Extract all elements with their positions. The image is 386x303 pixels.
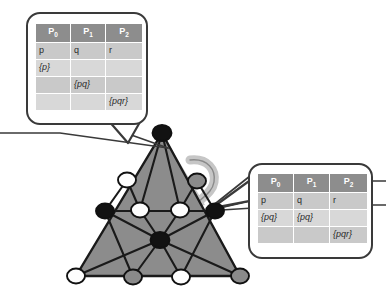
cell: p bbox=[258, 193, 293, 209]
callout-bottom-right-table: P0 P1 P2 p q r {pq} {pq} {pqr} bbox=[257, 173, 368, 244]
vertex-mid-left bbox=[96, 204, 114, 219]
vertex-bottom-center-left bbox=[124, 270, 142, 285]
cell: {pq} bbox=[71, 77, 105, 93]
cell: r bbox=[106, 43, 142, 59]
header-cell-p1: P1 bbox=[71, 24, 105, 42]
vertex-apex bbox=[153, 125, 172, 141]
vertex-bottom-right bbox=[231, 269, 249, 284]
cell: q bbox=[71, 43, 105, 59]
cell bbox=[106, 60, 142, 76]
vertex-mid-right bbox=[206, 204, 224, 219]
cell: {pqr} bbox=[330, 227, 367, 243]
vertex-upper-right bbox=[188, 174, 206, 189]
table-row: {pqr} bbox=[258, 227, 367, 243]
cell: {pqr} bbox=[106, 94, 142, 110]
table-row: p q r bbox=[36, 43, 142, 59]
table-row: {p} bbox=[36, 60, 142, 76]
table-header-row: P0 P1 P2 bbox=[36, 24, 142, 42]
cell bbox=[330, 210, 367, 226]
cell: {pq} bbox=[294, 210, 329, 226]
table-row: p q r bbox=[258, 193, 367, 209]
vertex-mid-center-left bbox=[131, 203, 149, 218]
header-cell-p2: P2 bbox=[330, 174, 367, 192]
cell bbox=[258, 227, 293, 243]
cell bbox=[36, 94, 70, 110]
callout-top-left-table: P0 P1 P2 p q r {p} {pq} bbox=[35, 23, 143, 111]
vertex-upper-left bbox=[118, 173, 136, 188]
table-row: {pq} bbox=[36, 77, 142, 93]
vertex-bottom-left bbox=[67, 269, 85, 284]
table-header-row: P0 P1 P2 bbox=[258, 174, 367, 192]
cell bbox=[294, 227, 329, 243]
vertex-mid-center-right bbox=[171, 203, 189, 218]
vertex-center bbox=[151, 232, 170, 248]
figure-canvas: P0 P1 P2 p q r {p} {pq} bbox=[0, 0, 386, 303]
cell bbox=[36, 77, 70, 93]
cell: p bbox=[36, 43, 70, 59]
header-cell-p0: P0 bbox=[36, 24, 70, 42]
cell: {p} bbox=[36, 60, 70, 76]
cell bbox=[106, 77, 142, 93]
cell bbox=[71, 94, 105, 110]
cell: q bbox=[294, 193, 329, 209]
vertex-bottom-center-right bbox=[172, 270, 190, 285]
cell: r bbox=[330, 193, 367, 209]
cell bbox=[71, 60, 105, 76]
header-cell-p2: P2 bbox=[106, 24, 142, 42]
cell: {pq} bbox=[258, 210, 293, 226]
header-cell-p1: P1 bbox=[294, 174, 329, 192]
table-row: {pqr} bbox=[36, 94, 142, 110]
table-row: {pq} {pq} bbox=[258, 210, 367, 226]
header-cell-p0: P0 bbox=[258, 174, 293, 192]
